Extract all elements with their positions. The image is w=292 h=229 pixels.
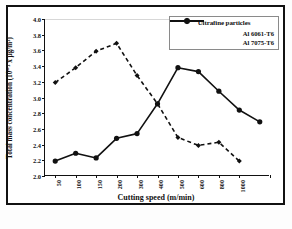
x-tick-label: 800 [218,180,225,189]
series-line-al-7075-t6 [55,68,260,161]
legend-label: Al 7075-T6 [243,39,274,46]
chart-legend: Ultrafine particles Al 6061-T6 Al 7075-T… [169,16,279,50]
data-point [175,65,180,70]
data-point [114,136,119,141]
x-tick-label: 100 [75,180,82,189]
y-tick-label: 2.2 [33,157,41,164]
y-tick-mark [42,176,45,177]
x-tick-label: 400 [157,180,164,189]
y-axis-title: Total mass concentration (10⁻³ x µg/m³) [5,37,14,159]
data-point [196,143,201,148]
x-tick-label: 500 [177,180,184,189]
data-point [216,89,221,94]
x-tick-label: 200 [116,180,123,189]
y-tick-label: 3.8 [33,31,41,38]
y-tick-label: 2.6 [33,125,41,132]
data-point [53,158,58,163]
legend-swatch-solid [170,17,204,25]
data-point [114,41,119,46]
data-point [94,155,99,160]
chart-figure: Total mass concentration (10⁻³ x µg/m³) … [0,0,292,229]
y-tick-label: 2.8 [33,110,41,117]
data-point [237,107,242,112]
y-tick-label: 3.6 [33,47,41,54]
y-tick-label: 2.0 [33,173,41,180]
data-point [155,101,160,106]
y-tick-label: 3.0 [33,94,41,101]
series-line-al-6061-t6 [55,43,239,161]
legend-item-al-7075-t6: Al 7075-T6 [174,39,274,46]
x-tick-label: 300 [136,180,143,189]
y-tick-label: 4.0 [33,16,41,23]
legend-item-al-6061-t6: Al 6061-T6 [174,30,274,37]
data-point [257,119,262,124]
x-tick-label: 150 [95,180,102,189]
x-axis-title: Cutting speed (m/min) [118,193,195,202]
x-tick-label: 50 [54,180,61,186]
x-tick-mark [270,175,271,178]
legend-label: Al 6061-T6 [243,30,274,37]
y-tick-label: 3.2 [33,78,41,85]
data-point [134,131,139,136]
x-tick-label: 1000 [238,180,245,192]
x-tick-label: 600 [198,180,205,189]
y-tick-label: 2.4 [33,141,41,148]
y-tick-label: 3.4 [33,63,41,70]
data-point [73,151,78,156]
data-point [196,69,201,74]
